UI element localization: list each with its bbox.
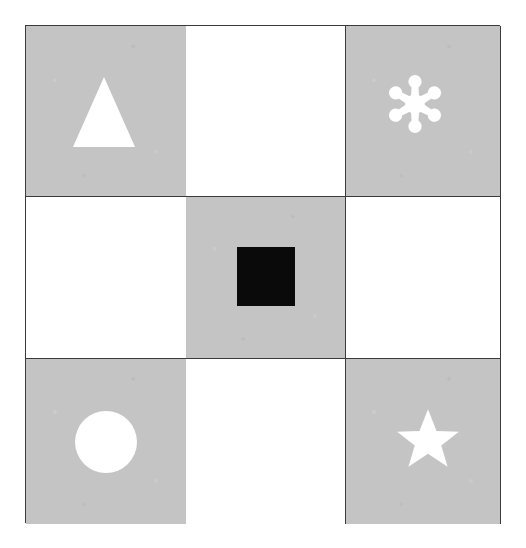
triangle-shape: [72, 76, 136, 148]
figure-canvas: [0, 0, 526, 548]
circle-shape: [75, 411, 137, 473]
grid-cell-r2c1[interactable]: [186, 359, 346, 524]
asterisk-flower-shape: [380, 66, 450, 142]
grid-cell-r2c0[interactable]: [26, 359, 186, 524]
grid-cell-r2c2[interactable]: [346, 359, 501, 524]
grid-cell-r1c1[interactable]: [186, 197, 346, 359]
grid-cell-r0c0[interactable]: [26, 26, 186, 197]
grid-cell-r1c0[interactable]: [26, 197, 186, 359]
shape-grid: [25, 25, 500, 523]
grid-cell-r0c2[interactable]: [346, 26, 501, 197]
square-shape: [237, 247, 295, 306]
grid-cell-r0c1[interactable]: [186, 26, 346, 197]
grid-cell-r1c2[interactable]: [346, 197, 501, 359]
star-shape: [396, 408, 460, 468]
